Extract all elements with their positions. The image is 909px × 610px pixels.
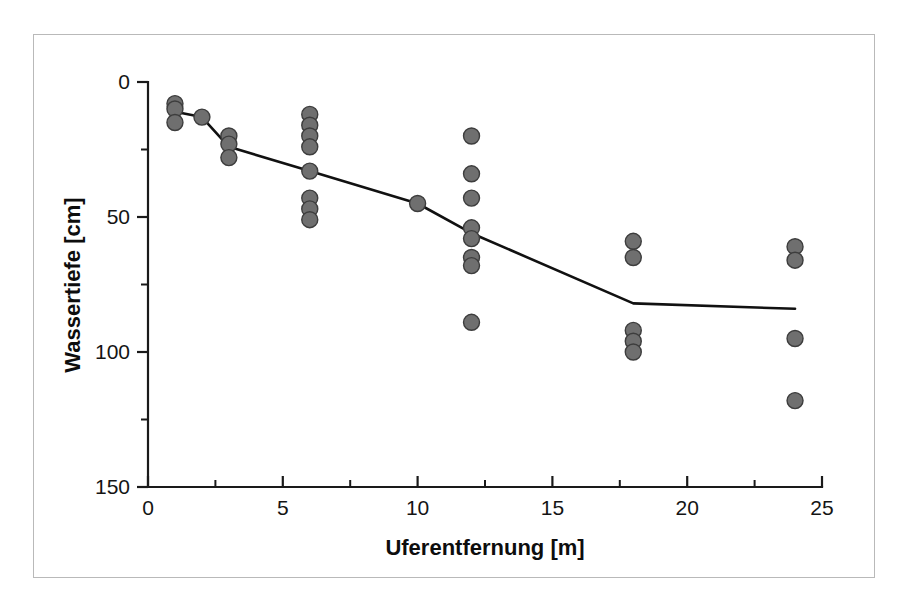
data-point: [464, 314, 480, 330]
plot-axes: [148, 82, 822, 487]
data-point: [302, 163, 318, 179]
x-tick-label: 0: [142, 496, 154, 519]
y-tick-label: 100: [95, 340, 130, 363]
x-tick-labels: 0510152025: [142, 496, 834, 519]
y-tick-label: 150: [95, 475, 130, 498]
data-point: [625, 250, 641, 266]
figure-container: 0510152025 050100150 Uferentfernung [m] …: [0, 0, 909, 610]
data-point: [625, 233, 641, 249]
x-tick-label: 10: [406, 496, 429, 519]
data-point: [302, 212, 318, 228]
data-point: [625, 344, 641, 360]
data-point: [464, 190, 480, 206]
data-point: [302, 139, 318, 155]
data-point: [167, 115, 183, 131]
x-axis-title: Uferentfernung [m]: [385, 535, 584, 560]
x-tick-label: 20: [676, 496, 699, 519]
minor-ticks: [141, 150, 755, 488]
mean-line-path: [175, 112, 795, 309]
data-point: [221, 150, 237, 166]
x-tick-label: 5: [277, 496, 289, 519]
data-point: [464, 258, 480, 274]
major-ticks: [137, 82, 822, 487]
data-point: [194, 109, 210, 125]
data-point: [787, 252, 803, 268]
y-axis-title: Wassertiefe [cm]: [60, 197, 85, 372]
scatter-plot: 0510152025 050100150 Uferentfernung [m] …: [0, 0, 909, 610]
data-point: [787, 393, 803, 409]
data-points: [167, 96, 803, 409]
data-point: [410, 196, 426, 212]
data-point: [464, 128, 480, 144]
data-point: [464, 166, 480, 182]
data-point: [787, 331, 803, 347]
mean-depth-line: [175, 112, 795, 309]
y-tick-label: 0: [118, 70, 130, 93]
y-tick-label: 50: [107, 205, 130, 228]
x-tick-label: 25: [810, 496, 833, 519]
y-tick-labels: 050100150: [95, 70, 130, 498]
x-tick-label: 15: [541, 496, 564, 519]
data-point: [464, 231, 480, 247]
